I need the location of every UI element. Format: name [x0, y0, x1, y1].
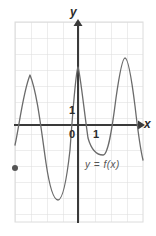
origin-label: 0 — [69, 129, 75, 140]
y-axis-tick-label-1: 1 — [69, 105, 75, 116]
x-axis-label: x — [144, 118, 151, 130]
graph-canvas — [0, 0, 156, 236]
x-axis-tick-label-1: 1 — [93, 129, 99, 140]
function-annotation-label: y = f(x) — [85, 160, 120, 170]
graph-figure: y x 1 0 1 y = f(x) — [0, 0, 156, 236]
bullet-marker-dot — [12, 165, 18, 171]
y-axis-label: y — [70, 6, 77, 18]
